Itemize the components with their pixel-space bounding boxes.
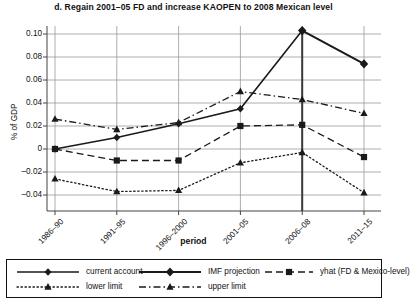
data-point-marker (361, 154, 367, 160)
legend-label: upper limit (208, 282, 246, 291)
data-point-marker (360, 109, 367, 116)
series-line (55, 125, 364, 161)
data-point-marker (113, 134, 120, 142)
data-point-marker (237, 88, 244, 95)
data-point-marker (175, 187, 182, 194)
data-point-marker (286, 269, 292, 275)
series-imf-projection (298, 26, 368, 69)
data-point-marker (52, 146, 58, 152)
data-point-marker (360, 189, 367, 196)
data-point-marker (176, 157, 182, 163)
legend: current accountIMF projectionyhat (FD & … (6, 259, 382, 298)
data-point-marker (237, 123, 243, 129)
data-point-marker (299, 149, 306, 156)
series-yhat-fd-mexico-level (52, 122, 367, 164)
series-line (55, 92, 364, 130)
data-point-marker (299, 122, 305, 128)
series-line (55, 152, 364, 192)
data-point-marker (360, 59, 368, 68)
data-point-marker (51, 115, 58, 122)
data-point-marker (237, 159, 244, 166)
legend-label: lower limit (86, 282, 122, 291)
legend-symbols (7, 260, 381, 297)
x-axis-label: period (0, 236, 387, 246)
data-point-marker (51, 175, 58, 182)
legend-label: yhat (FD & Mexico-level) (320, 267, 410, 276)
data-point-marker (114, 157, 120, 163)
series-line (302, 31, 364, 64)
data-point-marker (166, 267, 174, 276)
data-point-marker (299, 96, 306, 103)
legend-label: IMF projection (208, 267, 260, 276)
data-point-marker (45, 268, 52, 276)
series-upper-limit (51, 88, 367, 133)
legend-label: current account (86, 267, 142, 276)
